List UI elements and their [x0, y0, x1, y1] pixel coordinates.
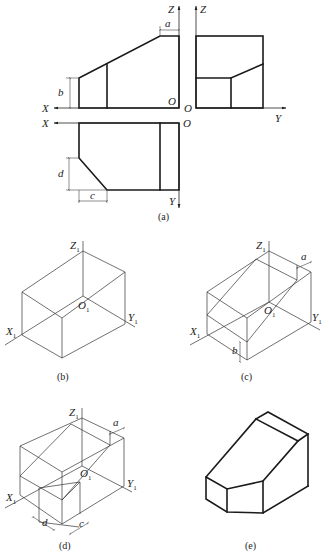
axis-label-o1-b: O1 — [78, 300, 89, 314]
front-view — [79, 36, 179, 108]
axis-label-y1-d: Y1 — [127, 478, 137, 492]
axis-label-x1-d: X1 — [6, 492, 16, 506]
dimension-label-d: d — [58, 168, 64, 179]
axis-label-z-front: Z — [168, 4, 174, 15]
panel-e — [206, 412, 308, 513]
axis-label-o1-c: O1 — [264, 305, 275, 319]
dimension-label-a: a — [165, 18, 171, 29]
axis-label-x1-c: X1 — [190, 326, 200, 340]
axis-label-z-side: Z — [200, 4, 206, 15]
axis-label-o-front: O — [168, 96, 176, 107]
drawing-canvas — [0, 0, 329, 557]
panel-a — [54, 6, 286, 208]
dimension-lines-a — [66, 26, 179, 203]
dimension-label-c: c — [90, 190, 95, 201]
dimension-label-b: b — [58, 87, 64, 98]
axis-label-y1-b: Y1 — [128, 312, 138, 326]
axis-label-o-side: O — [184, 103, 192, 114]
axis-label-x-front: X — [42, 103, 49, 114]
axis-label-y-side: Y — [275, 113, 281, 124]
dimension-label-d-d: d — [42, 517, 48, 528]
caption-c: (c) — [241, 372, 252, 382]
caption-b: (b) — [57, 372, 69, 382]
axis-label-o1-d: O1 — [80, 468, 91, 482]
caption-d: (d) — [59, 541, 71, 551]
panel-b — [5, 241, 135, 358]
axis-label-o-top: O — [183, 118, 191, 129]
side-view — [196, 36, 263, 108]
dimension-label-c-d: c — [79, 518, 84, 529]
axis-label-z1-c: Z1 — [256, 240, 266, 254]
dimension-label-a-d: a — [113, 417, 119, 428]
axis-label-z1-d: Z1 — [69, 407, 79, 421]
figure: Z Z a b X O O Y X O d c Y (a) Z1 O1 Y1 X… — [0, 0, 329, 557]
caption-e: (e) — [245, 541, 256, 551]
top-view — [79, 123, 179, 190]
axis-label-x-top: X — [42, 118, 49, 129]
axis-label-y1-c: Y1 — [312, 312, 322, 326]
axis-label-z1-b: Z1 — [70, 240, 80, 254]
dimension-label-b-c: b — [232, 345, 238, 356]
axis-label-y-top: Y — [169, 196, 175, 207]
caption-a: (a) — [158, 212, 169, 222]
axis-label-x1-b: X1 — [6, 326, 16, 340]
dimension-label-a-c: a — [301, 251, 307, 262]
